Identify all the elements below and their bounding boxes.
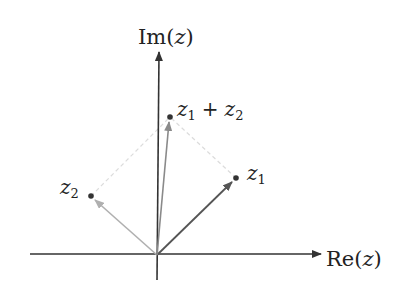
label-z2: z2	[59, 175, 79, 201]
vector-z1	[157, 182, 232, 255]
label-sum: z1+z2	[176, 97, 243, 123]
vector-z2	[95, 200, 157, 255]
label-z1: z1	[246, 161, 266, 187]
dashed-guide-z1-to-sum	[170, 117, 236, 178]
y-axis-label: Im(z)	[138, 25, 194, 49]
point-z2	[88, 193, 94, 199]
x-axis-label: Re(z)	[326, 247, 382, 271]
point-z1	[233, 175, 239, 181]
point-sum	[167, 114, 173, 120]
complex-plane-diagram: Im(z) Re(z) z1+z2 z1 z2	[0, 0, 408, 303]
